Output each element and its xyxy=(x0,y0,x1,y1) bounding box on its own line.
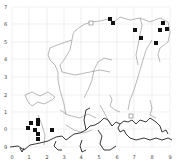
x-tick-label: 8 xyxy=(151,155,154,160)
filled-square-marker xyxy=(29,121,33,125)
y-tick-label: 7 xyxy=(4,5,7,10)
x-tick-label: 4 xyxy=(80,155,83,160)
y-tick-label: 6 xyxy=(4,22,7,27)
open-square-marker xyxy=(89,21,93,25)
filled-square-marker xyxy=(33,128,37,132)
filled-square-marker xyxy=(133,28,137,32)
y-tick-label: 4 xyxy=(4,57,7,62)
x-tick-label: 6 xyxy=(116,155,119,160)
open-square-marker xyxy=(129,114,133,118)
filled-square-marker xyxy=(111,21,115,25)
distribution-map xyxy=(0,0,178,163)
filled-square-marker xyxy=(36,137,40,141)
y-tick-label: 1 xyxy=(4,110,7,115)
filled-square-marker xyxy=(36,122,40,126)
y-tick-label: 3 xyxy=(4,75,7,80)
filled-square-marker xyxy=(108,17,112,21)
y-tick-label: 9 xyxy=(4,145,7,150)
filled-square-marker xyxy=(139,36,143,40)
filled-square-marker xyxy=(154,41,158,45)
x-tick-label: 2 xyxy=(46,155,49,160)
x-tick-label: 9 xyxy=(169,155,172,160)
y-tick-label: 0 xyxy=(4,127,7,132)
x-tick-label: 7 xyxy=(133,155,136,160)
filled-square-marker xyxy=(50,128,54,132)
filled-square-marker xyxy=(165,27,169,31)
y-tick-label: 5 xyxy=(4,40,7,45)
x-tick-label: 0 xyxy=(11,155,14,160)
filled-square-marker xyxy=(161,21,165,25)
y-tick-label: 2 xyxy=(4,93,7,98)
filled-square-marker xyxy=(26,126,30,130)
filled-square-marker xyxy=(36,132,40,136)
x-tick-label: 1 xyxy=(28,155,31,160)
filled-square-marker xyxy=(158,28,162,32)
filled-square-marker xyxy=(36,118,40,122)
x-tick-label: 5 xyxy=(98,155,101,160)
occurrence-markers xyxy=(26,17,169,141)
x-tick-label: 3 xyxy=(63,155,66,160)
